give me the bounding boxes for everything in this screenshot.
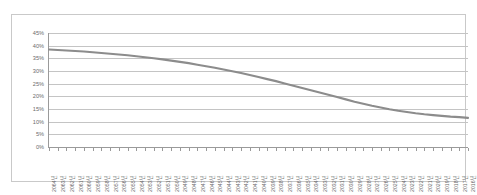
x-axis-tick xyxy=(189,148,190,151)
y-axis-tick-label: 35% xyxy=(14,55,44,61)
x-axis-tick xyxy=(93,148,94,151)
y-axis-tick-label: 0% xyxy=(14,144,44,150)
x-axis-labels: 2064년2063년2062년2061년2060년2059년2058년2057년… xyxy=(49,152,468,195)
y-axis-tick-label: 15% xyxy=(14,106,44,112)
y-axis-tick-label: 30% xyxy=(14,68,44,74)
x-axis-tick xyxy=(101,148,102,151)
x-axis-tick-label: 2027년 xyxy=(374,175,380,192)
x-axis-tick-label: 2064년 xyxy=(51,175,57,192)
x-axis-tick xyxy=(128,148,129,151)
x-axis-tick-label: 2039년 xyxy=(270,175,276,192)
x-axis-tick xyxy=(398,148,399,151)
x-axis-tick-label: 2040년 xyxy=(261,175,267,192)
y-axis-tick-label: 25% xyxy=(14,81,44,87)
x-axis-tick xyxy=(372,148,373,151)
x-axis-tick-label: 2035년 xyxy=(305,175,311,192)
x-axis-tick-label: 2046년 xyxy=(209,175,215,192)
x-axis-tick xyxy=(224,148,225,151)
x-axis-tick-label: 2054년 xyxy=(139,175,145,192)
x-axis-tick xyxy=(320,148,321,151)
x-axis-tick-label: 2034년 xyxy=(313,175,319,192)
y-axis-tick-label: 10% xyxy=(14,119,44,125)
x-axis-tick xyxy=(337,148,338,151)
x-axis-tick-label: 2023년 xyxy=(409,175,415,192)
x-axis-tick xyxy=(197,148,198,151)
plot-area xyxy=(49,33,468,147)
x-axis-tick-label: 2052년 xyxy=(156,175,162,192)
x-axis-tick xyxy=(267,148,268,151)
y-axis-tick-label: 20% xyxy=(14,93,44,99)
x-axis-tick-label: 2018년 xyxy=(453,175,459,192)
x-axis-tick xyxy=(119,148,120,151)
x-axis-tick xyxy=(215,148,216,151)
x-axis-tick-label: 2037년 xyxy=(287,175,293,192)
x-axis-tick-label: 2048년 xyxy=(191,175,197,192)
x-axis-tick xyxy=(293,148,294,151)
x-axis-tick xyxy=(276,148,277,151)
x-axis-tick xyxy=(355,148,356,151)
x-axis-tick xyxy=(259,148,260,151)
x-axis-tick-label: 2016년 xyxy=(470,175,476,192)
x-axis-tick-label: 2059년 xyxy=(95,175,101,192)
x-axis-tick-label: 2051년 xyxy=(165,175,171,192)
x-axis-tick xyxy=(49,148,50,151)
x-axis-tick xyxy=(285,148,286,151)
x-axis-tick-label: 2061년 xyxy=(78,175,84,192)
series-polyline xyxy=(49,49,468,117)
x-axis-tick xyxy=(154,148,155,151)
x-axis-tick xyxy=(459,148,460,151)
x-axis-tick xyxy=(66,148,67,151)
x-axis-tick-label: 2033년 xyxy=(322,175,328,192)
x-axis-tick-label: 2049년 xyxy=(182,175,188,192)
x-axis-tick-label: 2025년 xyxy=(392,175,398,192)
x-axis-tick xyxy=(58,148,59,151)
x-axis-tick-label: 2057년 xyxy=(113,175,119,192)
x-axis-tick-label: 2029년 xyxy=(357,175,363,192)
x-axis-tick xyxy=(381,148,382,151)
x-axis-tick-label: 2024년 xyxy=(401,175,407,192)
y-axis-tick-label: 40% xyxy=(14,43,44,49)
x-axis-tick-label: 2044년 xyxy=(226,175,232,192)
x-axis-tick-label: 2020년 xyxy=(435,175,441,192)
x-axis-tick xyxy=(346,148,347,151)
x-axis-tick xyxy=(442,148,443,151)
x-axis-tick xyxy=(171,148,172,151)
x-axis-tick xyxy=(145,148,146,151)
x-axis-tick xyxy=(468,148,469,151)
chart-frame: 45%40%35%30%25%20%15%10%5%0% 2064년2063년2… xyxy=(11,14,466,182)
x-axis-tick xyxy=(84,148,85,151)
y-axis-tick-label: 5% xyxy=(14,131,44,137)
x-axis-tick-label: 2060년 xyxy=(86,175,92,192)
x-axis-tick-label: 2063년 xyxy=(60,175,66,192)
x-axis-tick xyxy=(250,148,251,151)
x-axis-tick xyxy=(416,148,417,151)
x-axis-tick-label: 2030년 xyxy=(348,175,354,192)
y-axis-tick-label: 45% xyxy=(14,30,44,36)
x-axis-tick xyxy=(363,148,364,151)
x-axis-tick xyxy=(433,148,434,151)
x-axis-tick-label: 2038년 xyxy=(278,175,284,192)
x-axis-tick-label: 2026년 xyxy=(383,175,389,192)
x-axis-tick xyxy=(241,148,242,151)
x-axis-tick xyxy=(110,148,111,151)
x-axis-tick xyxy=(328,148,329,151)
x-axis-tick-label: 2047년 xyxy=(200,175,206,192)
x-axis-tick-label: 2019년 xyxy=(444,175,450,192)
x-axis-tick-label: 2045년 xyxy=(217,175,223,192)
line-series xyxy=(49,33,468,147)
x-axis-tick xyxy=(232,148,233,151)
x-axis-tick-label: 2056년 xyxy=(121,175,127,192)
x-axis-tick-label: 2050년 xyxy=(174,175,180,192)
x-axis-tick xyxy=(206,148,207,151)
x-axis-tick-label: 2058년 xyxy=(104,175,110,192)
x-axis-tick-label: 2022년 xyxy=(418,175,424,192)
x-axis-tick xyxy=(451,148,452,151)
x-axis-tick xyxy=(311,148,312,151)
x-axis-tick xyxy=(389,148,390,151)
x-axis-tick-label: 2021년 xyxy=(427,175,433,192)
x-axis-tick-label: 2031년 xyxy=(339,175,345,192)
x-axis-tick xyxy=(407,148,408,151)
x-axis-tick-label: 2036년 xyxy=(296,175,302,192)
x-axis-tick xyxy=(302,148,303,151)
x-axis-tick xyxy=(424,148,425,151)
